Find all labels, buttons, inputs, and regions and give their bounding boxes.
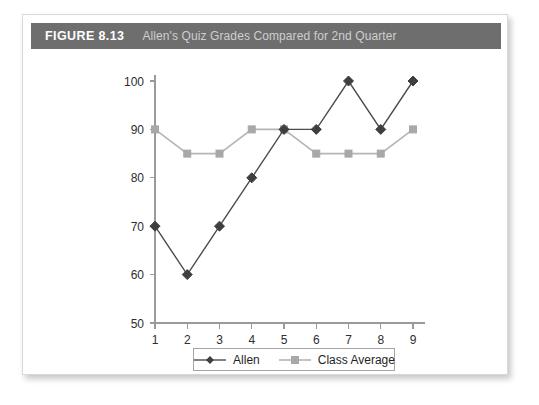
legend-label-allen: Allen <box>233 353 260 367</box>
y-axis-tick-label: 80 <box>131 171 145 185</box>
x-axis-tick-label: 7 <box>345 333 352 347</box>
y-axis-tick-label: 90 <box>131 123 145 137</box>
legend-marker-diamond-icon <box>193 354 227 366</box>
figure-header-bar: FIGURE 8.13 Allen's Quiz Grades Compared… <box>31 23 501 49</box>
legend-marker-square-icon <box>278 354 312 366</box>
y-axis-tick-label: 50 <box>131 317 145 331</box>
x-axis-tick-label: 2 <box>184 333 191 347</box>
legend-label-class-average: Class Average <box>318 353 395 367</box>
data-point-allen <box>247 173 257 183</box>
data-point-class-average <box>216 150 223 157</box>
series-allen <box>150 76 418 280</box>
x-axis: 123456789 <box>152 323 425 347</box>
line-chart-svg: 5060708090100 123456789 <box>23 55 509 373</box>
data-point-allen <box>376 124 386 134</box>
data-point-allen <box>408 76 418 86</box>
x-axis-tick-label: 1 <box>152 333 159 347</box>
x-axis-tick-label: 6 <box>313 333 320 347</box>
data-point-class-average <box>184 150 191 157</box>
data-point-class-average <box>345 150 352 157</box>
data-point-allen <box>215 221 225 231</box>
data-point-class-average <box>248 126 255 133</box>
chart-legend: Allen Class Average <box>193 348 395 371</box>
y-axis: 5060708090100 <box>124 75 155 331</box>
figure-title: Allen's Quiz Grades Compared for 2nd Qua… <box>142 29 396 43</box>
legend-entry-allen: Allen <box>193 353 260 367</box>
figure-card: FIGURE 8.13 Allen's Quiz Grades Compared… <box>22 14 508 375</box>
data-point-allen <box>150 221 160 231</box>
x-axis-tick-label: 9 <box>410 333 417 347</box>
figure-number-label: FIGURE 8.13 <box>45 29 124 43</box>
data-point-class-average <box>410 126 417 133</box>
data-point-allen <box>344 76 354 86</box>
figure-screenshot: FIGURE 8.13 Allen's Quiz Grades Compared… <box>0 0 539 405</box>
legend-entry-class-average: Class Average <box>278 353 395 367</box>
data-point-class-average <box>152 126 159 133</box>
x-axis-tick-label: 5 <box>281 333 288 347</box>
x-axis-tick-label: 4 <box>248 333 255 347</box>
y-axis-tick-label: 100 <box>124 75 144 89</box>
y-axis-tick-label: 70 <box>131 220 145 234</box>
data-point-class-average <box>377 150 384 157</box>
data-point-allen <box>311 124 321 134</box>
y-axis-tick-label: 60 <box>131 268 145 282</box>
data-point-class-average <box>313 150 320 157</box>
x-axis-tick-label: 8 <box>377 333 384 347</box>
data-point-allen <box>182 270 192 280</box>
chart-plot-area: 5060708090100 123456789 <box>23 55 509 373</box>
x-axis-tick-label: 3 <box>216 333 223 347</box>
